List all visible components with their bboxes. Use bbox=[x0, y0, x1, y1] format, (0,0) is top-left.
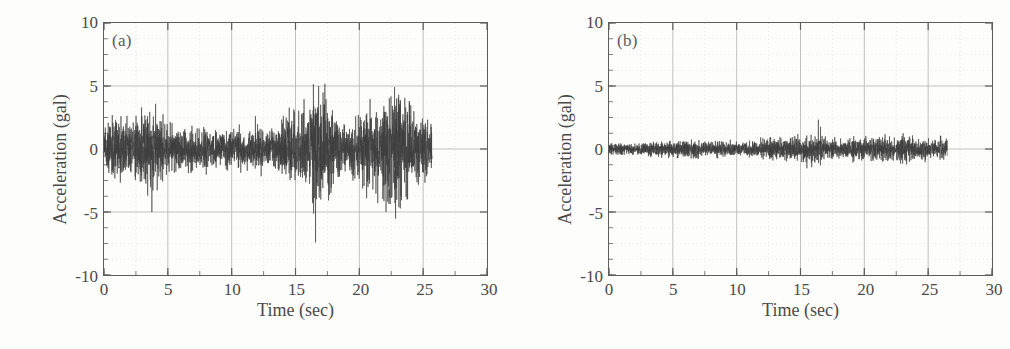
y-tick-label: -5 bbox=[84, 204, 98, 224]
y-tick-label: 5 bbox=[90, 77, 99, 97]
y-tick-label: 5 bbox=[595, 77, 604, 97]
y-tick-label: 10 bbox=[586, 13, 603, 33]
x-tick-label: 15 bbox=[793, 280, 810, 300]
x-tick-label: 0 bbox=[100, 280, 109, 300]
ticks-a: 0510152025301050-5-10 bbox=[104, 23, 487, 275]
x-tick-label: 30 bbox=[481, 280, 498, 300]
x-tick-label: 0 bbox=[605, 280, 614, 300]
x-axis-title-b: Time (sec) bbox=[608, 300, 993, 321]
x-tick-label: 25 bbox=[416, 280, 433, 300]
panel-label-b: (b) bbox=[617, 31, 638, 51]
x-tick-label: 15 bbox=[288, 280, 305, 300]
y-tick-label: 0 bbox=[595, 140, 604, 160]
panel-label-a: (a) bbox=[112, 31, 132, 51]
x-tick-label: 5 bbox=[164, 280, 173, 300]
y-axis-title-a: Acceleration (gal) bbox=[50, 33, 71, 287]
y-tick-label: -10 bbox=[75, 267, 98, 287]
y-tick-label: 0 bbox=[90, 140, 99, 160]
panel-b: Acceleration (gal) Time (sec) 0510152025… bbox=[505, 0, 1010, 349]
x-tick-label: 10 bbox=[729, 280, 746, 300]
x-axis-title-a: Time (sec) bbox=[103, 300, 488, 321]
y-tick-label: -10 bbox=[580, 267, 603, 287]
figure-container: Acceleration (gal) Time (sec) 0510152025… bbox=[0, 0, 1010, 349]
y-tick-label: -5 bbox=[589, 204, 603, 224]
x-tick-label: 30 bbox=[986, 280, 1003, 300]
plot-area-b: 0510152025301050-5-10 bbox=[608, 22, 993, 276]
x-tick-label: 5 bbox=[669, 280, 678, 300]
y-tick-label: 10 bbox=[81, 13, 98, 33]
plot-area-a: 0510152025301050-5-10 bbox=[103, 22, 488, 276]
ticks-b: 0510152025301050-5-10 bbox=[609, 23, 992, 275]
x-tick-label: 20 bbox=[352, 280, 369, 300]
panel-a: Acceleration (gal) Time (sec) 0510152025… bbox=[0, 0, 505, 349]
x-tick-label: 20 bbox=[857, 280, 874, 300]
x-tick-label: 25 bbox=[921, 280, 938, 300]
y-axis-title-b: Acceleration (gal) bbox=[555, 33, 576, 287]
x-tick-label: 10 bbox=[224, 280, 241, 300]
